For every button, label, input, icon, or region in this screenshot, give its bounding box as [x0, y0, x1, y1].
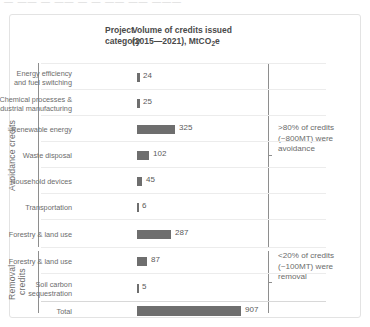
header-volume-line2b: —2021), MtCO	[154, 36, 212, 46]
value-label: 45	[146, 175, 155, 184]
value-label-total: 907	[245, 305, 258, 314]
row-label-line1: Energy efficiency	[17, 69, 72, 78]
value-label: 102	[153, 149, 166, 158]
value-label: 87	[151, 255, 160, 264]
value-bar	[137, 203, 139, 212]
table-row: Household devices 45	[41, 167, 326, 193]
value-bar	[137, 151, 149, 160]
bar-chart-plot: Avoidance credits Removal credits >80% o…	[10, 61, 360, 319]
table-row: Soil carbonsequestration 5	[41, 273, 326, 301]
table-row: Renewable energy 325	[41, 115, 326, 141]
row-label-line1: Waste disposal	[23, 151, 72, 160]
co2-subscript: 2	[211, 40, 215, 47]
row-label-line2: and fuel switching	[14, 78, 72, 87]
header-volume-line2c: e	[215, 36, 220, 46]
chart-card: Projectcategory Volume of credits issued…	[9, 14, 361, 318]
row-label: Renewable energy	[0, 125, 72, 134]
value-label: 24	[143, 71, 152, 80]
row-label-line1: Chemical processes &	[0, 95, 72, 104]
row-label: Chemical processes &industrial manufactu…	[0, 95, 72, 113]
row-label-line1: Forestry & land use	[9, 257, 72, 266]
row-label: Household devices	[0, 177, 72, 186]
row-label-line1: Household devices	[10, 177, 72, 186]
row-label-line1: Forestry & land use	[9, 230, 72, 239]
header-volume-of-credits: Volume of credits issued (2015—2021), Mt…	[132, 25, 282, 47]
value-bar	[137, 73, 140, 82]
header-volume-line2a: (2015	[132, 36, 154, 46]
row-label: Transportation	[0, 203, 72, 212]
row-label: Forestry & land use	[0, 257, 72, 266]
top-text-fragment: — —— — —— — — —— —— ———	[4, 0, 182, 7]
value-bar	[137, 284, 139, 293]
value-label: 25	[143, 97, 152, 106]
table-row: Forestry & land use 287	[41, 219, 326, 247]
row-label-total: Total	[0, 307, 72, 316]
row-label-line2: sequestration	[28, 289, 72, 298]
row-label-line1: Soil carbon	[35, 280, 72, 289]
row-label: Soil carbonsequestration	[0, 280, 72, 298]
value-label: 325	[179, 123, 192, 132]
table-row: Forestry & land use 87	[41, 247, 326, 273]
value-bar-total	[137, 306, 241, 316]
table-row: Chemical processes &industrial manufactu…	[41, 89, 326, 115]
value-bar	[137, 125, 175, 134]
value-bar	[137, 177, 142, 186]
table-header: Projectcategory Volume of credits issued…	[10, 15, 360, 61]
row-label-line2: industrial manufacturing	[0, 104, 72, 113]
value-label: 6	[142, 201, 146, 210]
value-bar	[137, 257, 147, 266]
row-label-line1: Renewable energy	[11, 125, 72, 134]
value-bar	[137, 230, 171, 239]
row-label: Energy efficiencyand fuel switching	[0, 69, 72, 87]
header-volume-line1: Volume of credits issued	[132, 25, 232, 35]
table-row: Transportation 6	[41, 193, 326, 219]
value-bar	[137, 99, 140, 108]
table-row-total: Total 907	[41, 301, 326, 321]
truncated-top-text-strip: — —— — —— — — —— —— ———	[0, 0, 370, 13]
value-label: 5	[142, 282, 146, 291]
row-label: Forestry & land use	[0, 230, 72, 239]
table-row: Waste disposal 102	[41, 141, 326, 167]
table-row: Energy efficiencyand fuel switching 24	[41, 63, 326, 89]
row-label: Waste disposal	[0, 151, 72, 160]
row-label-line1: Transportation	[25, 203, 72, 212]
value-label: 287	[175, 228, 188, 237]
